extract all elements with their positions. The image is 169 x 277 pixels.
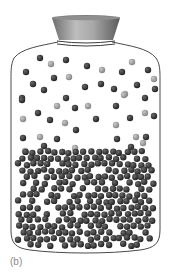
dark-molecule (143, 134, 149, 140)
liquid-molecule (65, 161, 71, 167)
liquid-molecule (15, 237, 21, 243)
light-molecule (129, 59, 135, 65)
liquid-molecule (24, 235, 30, 241)
liquid-molecule (84, 230, 90, 236)
liquid-molecule (134, 242, 140, 248)
liquid-molecule (101, 160, 107, 166)
bottle-cap (52, 15, 120, 46)
vapor-molecules (19, 55, 158, 154)
dark-molecule (84, 63, 90, 69)
light-molecule (62, 120, 68, 126)
liquid-molecule (137, 210, 143, 216)
liquid-molecule (141, 193, 147, 199)
liquid-molecule (27, 191, 33, 197)
liquid-molecule (106, 204, 112, 210)
light-molecule (54, 103, 60, 109)
liquid-molecule (109, 160, 115, 166)
liquid-molecule (102, 148, 108, 154)
liquid-molecule (146, 186, 152, 192)
liquid-molecule (97, 155, 103, 161)
liquid-molecule (49, 228, 55, 234)
liquid-molecule (95, 160, 101, 166)
liquid-molecule (18, 216, 24, 222)
liquid-molecule (119, 192, 125, 198)
liquid-molecule (134, 192, 140, 198)
liquid-molecule (117, 161, 123, 167)
liquid-molecule (34, 155, 40, 161)
liquid-molecule (76, 155, 82, 161)
liquid-molecule (132, 210, 138, 216)
liquid-molecule (132, 174, 138, 180)
light-molecule (20, 116, 26, 122)
liquid-molecule (117, 223, 123, 229)
liquid-molecule (34, 205, 40, 211)
dark-molecule (111, 86, 117, 92)
liquid-molecule (101, 212, 107, 218)
liquid-molecule (110, 186, 116, 192)
liquid-molecule (99, 179, 105, 185)
dark-molecule (72, 105, 78, 111)
dark-molecule (41, 143, 47, 149)
liquid-molecule (29, 198, 35, 204)
dark-molecule (119, 69, 125, 75)
liquid-molecule (128, 205, 134, 211)
liquid-molecule (91, 192, 97, 198)
liquid-molecule (39, 186, 45, 192)
liquid-molecule (24, 174, 30, 180)
liquid-molecule (84, 155, 90, 161)
liquid-molecule (76, 204, 82, 210)
liquid-molecule (64, 216, 70, 222)
liquid-molecule (20, 205, 26, 211)
dark-molecule (73, 127, 79, 133)
liquid-molecule (98, 229, 104, 235)
liquid-molecule (102, 186, 108, 192)
liquid-molecule (62, 179, 68, 185)
liquid-molecule (59, 149, 65, 155)
liquid-molecule (26, 217, 32, 223)
liquid-molecule (60, 210, 66, 216)
liquid-molecules (15, 148, 157, 249)
liquid-molecule (81, 212, 87, 218)
dark-molecule (37, 55, 43, 61)
liquid-molecule (78, 168, 84, 174)
liquid-molecule (23, 224, 29, 230)
liquid-molecule (106, 216, 112, 222)
liquid-molecule (30, 212, 36, 218)
liquid-molecule (15, 160, 21, 166)
liquid-molecule (88, 148, 94, 154)
liquid-molecule (134, 156, 140, 162)
dark-molecule (20, 135, 26, 141)
liquid-molecule (76, 192, 82, 198)
dark-molecule (114, 136, 120, 142)
liquid-molecule (44, 236, 50, 242)
liquid-molecule (112, 192, 118, 198)
liquid-molecule (102, 223, 108, 229)
liquid-molecule (96, 174, 102, 180)
liquid-molecule (123, 198, 129, 204)
liquid-molecule (62, 229, 68, 235)
light-molecule (140, 140, 146, 146)
liquid-molecule (120, 241, 126, 247)
liquid-molecule (55, 204, 61, 210)
liquid-molecule (132, 197, 138, 203)
liquid-molecule (126, 179, 132, 185)
light-molecule (121, 92, 127, 98)
liquid-molecule (83, 218, 89, 224)
liquid-molecule (91, 204, 97, 210)
liquid-molecule (44, 199, 50, 205)
liquid-molecule (80, 149, 86, 155)
liquid-molecule (30, 160, 36, 166)
liquid-molecule (150, 181, 156, 187)
dark-molecule (93, 116, 99, 122)
liquid-molecule (30, 235, 36, 241)
liquid-molecule (144, 222, 150, 228)
liquid-molecule (85, 243, 91, 249)
liquid-molecule (141, 179, 147, 185)
liquid-molecule (117, 185, 123, 191)
light-molecule (113, 122, 119, 128)
liquid-molecule (62, 242, 68, 248)
liquid-molecule (78, 241, 84, 247)
dark-molecule (63, 95, 69, 101)
liquid-molecule (134, 168, 140, 174)
liquid-molecule (44, 174, 50, 180)
